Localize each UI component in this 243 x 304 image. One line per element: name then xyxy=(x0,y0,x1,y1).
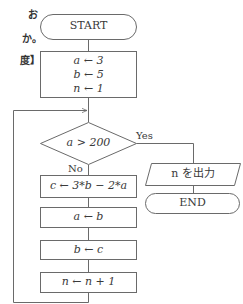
output-label: n を出力 xyxy=(145,168,241,180)
init-line-2: b ← 5 xyxy=(40,69,137,81)
step-n-label: n ← n + 1 xyxy=(40,276,137,288)
start-label: START xyxy=(40,20,137,32)
yes-branch-line xyxy=(137,144,194,164)
no-label: No xyxy=(68,163,83,175)
init-line-1: a ← 3 xyxy=(40,55,137,67)
flowchart-diagram xyxy=(0,0,243,304)
init-line-3: n ← 1 xyxy=(40,83,137,95)
decision-label: a > 200 xyxy=(40,137,137,149)
end-label: END xyxy=(145,197,240,209)
yes-label: Yes xyxy=(136,130,153,142)
step-b-label: b ← c xyxy=(40,244,137,256)
step-c-label: c ← 3*b − 2*a xyxy=(40,180,137,192)
step-a-label: a ← b xyxy=(40,211,137,223)
